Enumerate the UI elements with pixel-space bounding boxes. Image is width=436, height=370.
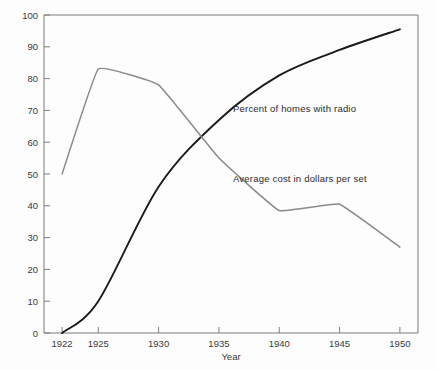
y-tick-label: 0 — [33, 328, 38, 339]
x-tick-label: 1945 — [329, 338, 350, 349]
x-tick-label: 1940 — [269, 338, 290, 349]
annotation-percent-homes-with-radio: Percent of homes with radio — [233, 103, 356, 114]
y-tick-label: 70 — [27, 105, 38, 116]
x-axis: 1922192519301935194019451950 — [52, 327, 411, 349]
y-tick-label: 80 — [27, 73, 38, 84]
x-tick-label: 1930 — [148, 338, 169, 349]
x-tick-label: 1925 — [88, 338, 109, 349]
y-tick-label: 50 — [27, 169, 38, 180]
series-line-average-cost-per-set — [62, 69, 400, 248]
x-tick-label: 1935 — [208, 338, 229, 349]
chart-figure: 0102030405060708090100 19221925193019351… — [0, 0, 436, 370]
annotation-average-cost-per-set: Average cost in dollars per set — [233, 173, 367, 184]
x-tick-label: 1922 — [52, 338, 73, 349]
line-chart-canvas: 0102030405060708090100 19221925193019351… — [0, 0, 436, 370]
y-tick-label: 10 — [27, 296, 38, 307]
y-tick-label: 100 — [22, 10, 38, 21]
y-tick-label: 40 — [27, 200, 38, 211]
y-tick-label: 90 — [27, 41, 38, 52]
y-tick-label: 20 — [27, 264, 38, 275]
x-axis-title: Year — [221, 351, 240, 362]
y-axis: 0102030405060708090100 — [22, 10, 50, 339]
y-tick-label: 30 — [27, 232, 38, 243]
x-tick-label: 1950 — [389, 338, 410, 349]
y-tick-label: 60 — [27, 137, 38, 148]
